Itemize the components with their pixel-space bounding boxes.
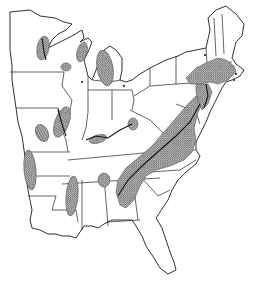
eastern-us-map bbox=[0, 0, 255, 291]
region-central-wisconsin bbox=[61, 63, 71, 71]
city-dot bbox=[235, 73, 237, 75]
city-dot bbox=[81, 81, 83, 83]
region-north-alabama bbox=[98, 173, 110, 187]
city-dot bbox=[123, 85, 125, 87]
map-container bbox=[0, 0, 255, 291]
city-dot bbox=[233, 79, 235, 81]
city-dot bbox=[204, 54, 206, 56]
region-southern-ohio bbox=[128, 118, 138, 130]
